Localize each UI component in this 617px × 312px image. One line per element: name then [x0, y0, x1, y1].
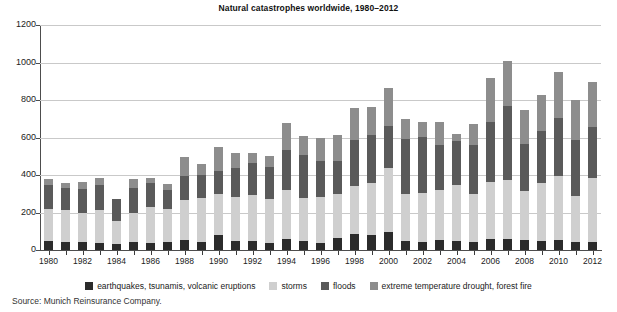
- bar-group[interactable]: [163, 25, 172, 250]
- bar-group[interactable]: [282, 25, 291, 250]
- bar-segment: [95, 178, 104, 186]
- bar-group[interactable]: [554, 25, 563, 250]
- bar-segment: [571, 196, 580, 242]
- legend-item[interactable]: floods: [321, 281, 356, 291]
- x-axis-labels: 1980198219841986198819901992199419961998…: [0, 256, 617, 270]
- y-tick-label: 400: [2, 169, 36, 179]
- bar-segment: [384, 88, 393, 126]
- bar-segment: [231, 197, 240, 241]
- x-tick-label: 1998: [338, 256, 372, 266]
- legend-item[interactable]: earthquakes, tsunamis, volcanic eruption…: [85, 281, 255, 291]
- bar-segment: [350, 108, 359, 141]
- bar-group[interactable]: [78, 25, 87, 250]
- bar-group[interactable]: [333, 25, 342, 250]
- x-tick-mark: [236, 251, 237, 255]
- bar-segment: [571, 242, 580, 250]
- bar-group[interactable]: [537, 25, 546, 250]
- legend-item[interactable]: storms: [269, 281, 307, 291]
- x-tick-mark: [321, 251, 322, 255]
- bar-segment: [333, 238, 342, 250]
- bar-group[interactable]: [231, 25, 240, 250]
- x-tick-mark: [576, 251, 577, 255]
- bar-segment: [367, 183, 376, 236]
- bar-segment: [554, 176, 563, 240]
- bar-segment: [503, 61, 512, 106]
- bar-group[interactable]: [435, 25, 444, 250]
- legend-swatch-icon: [321, 282, 329, 290]
- bar-segment: [503, 239, 512, 250]
- bar-group[interactable]: [486, 25, 495, 250]
- bar-group[interactable]: [129, 25, 138, 250]
- x-tick-label: 1984: [100, 256, 134, 266]
- x-tick-label: 2004: [440, 256, 474, 266]
- legend-label: earthquakes, tsunamis, volcanic eruption…: [97, 281, 255, 291]
- x-tick-label: 1994: [270, 256, 304, 266]
- bar-segment: [452, 185, 461, 240]
- bar-segment: [520, 144, 529, 191]
- bar-segment: [112, 244, 121, 250]
- bar-segment: [554, 118, 563, 176]
- bar-segment: [401, 194, 410, 241]
- bar-segment: [316, 197, 325, 243]
- x-tick-mark: [372, 251, 373, 255]
- bar-segment: [554, 240, 563, 250]
- bar-segment: [129, 179, 138, 188]
- bar-group[interactable]: [248, 25, 257, 250]
- bar-segment: [571, 140, 580, 195]
- bar-group[interactable]: [265, 25, 274, 250]
- bar-segment: [299, 198, 308, 240]
- bar-group[interactable]: [384, 25, 393, 250]
- y-tick-label: 1200: [2, 19, 36, 29]
- bar-group[interactable]: [95, 25, 104, 250]
- bar-segment: [384, 168, 393, 233]
- legend-swatch-icon: [85, 282, 93, 290]
- bar-group[interactable]: [350, 25, 359, 250]
- bar-segment: [214, 235, 223, 250]
- bar-segment: [486, 78, 495, 122]
- x-tick-mark: [457, 251, 458, 255]
- bar-group[interactable]: [180, 25, 189, 250]
- bar-segment: [299, 136, 308, 156]
- x-tick-mark: [508, 251, 509, 255]
- bar-segment: [469, 194, 478, 242]
- bar-group[interactable]: [418, 25, 427, 250]
- x-tick-label: 2002: [406, 256, 440, 266]
- bar-group[interactable]: [588, 25, 597, 250]
- bar-group[interactable]: [146, 25, 155, 250]
- bar-segment: [520, 191, 529, 240]
- bar-group[interactable]: [112, 25, 121, 250]
- x-tick-mark: [168, 251, 169, 255]
- legend-label: storms: [281, 281, 307, 291]
- bar-segment: [214, 147, 223, 171]
- bar-segment: [554, 72, 563, 118]
- bar-group[interactable]: [316, 25, 325, 250]
- bar-group[interactable]: [299, 25, 308, 250]
- bar-group[interactable]: [44, 25, 53, 250]
- bar-group[interactable]: [61, 25, 70, 250]
- bar-group[interactable]: [452, 25, 461, 250]
- bar-segment: [180, 240, 189, 250]
- bar-segment: [367, 107, 376, 135]
- x-tick-mark: [440, 251, 441, 255]
- bar-group[interactable]: [571, 25, 580, 250]
- bar-group[interactable]: [520, 25, 529, 250]
- bar-segment: [265, 243, 274, 251]
- bar-segment: [61, 183, 70, 189]
- chart-figure: Natural catastrophes worldwide, 1980–201…: [0, 0, 617, 312]
- y-tick-label: 800: [2, 94, 36, 104]
- bar-group[interactable]: [214, 25, 223, 250]
- y-axis-labels: 020040060080010001200: [0, 25, 36, 251]
- y-tick-label: 600: [2, 132, 36, 142]
- legend-item[interactable]: extreme temperature drought, forest fire: [370, 281, 532, 291]
- bar-group[interactable]: [401, 25, 410, 250]
- bar-segment: [333, 135, 342, 161]
- bar-segment: [112, 199, 121, 221]
- bar-group[interactable]: [469, 25, 478, 250]
- bar-group[interactable]: [503, 25, 512, 250]
- bar-segment: [537, 131, 546, 183]
- bar-segment: [435, 145, 444, 190]
- bar-segment: [384, 126, 393, 167]
- bar-group[interactable]: [197, 25, 206, 250]
- bar-group[interactable]: [367, 25, 376, 250]
- x-tick-mark: [355, 251, 356, 255]
